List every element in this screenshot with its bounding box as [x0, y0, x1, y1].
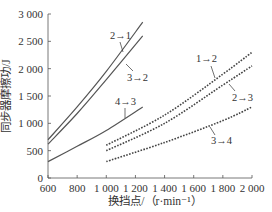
y-tick-label: 3 000: [18, 8, 43, 20]
label-2to1: 2→1: [110, 30, 131, 41]
axes: [48, 14, 252, 178]
x-axis-label: 换挡点/（r·min⁻¹）: [108, 194, 201, 207]
label-2to3: 2→3: [232, 92, 253, 103]
annotations: 2→1 3→2 4→3 1→2 2→3 3→4: [110, 30, 253, 146]
chart: 05001 0001 5002 0002 5003 000 6008001 00…: [0, 0, 272, 212]
y-tick-label: 1 000: [18, 117, 43, 129]
label-3to2: 3→2: [127, 72, 148, 83]
y-tick-label: 2 000: [18, 63, 43, 75]
x-tick-label: 1 200: [123, 182, 148, 194]
x-tick-label: 1 400: [152, 182, 177, 194]
series-line-3→2: [48, 36, 143, 144]
y-axis-ticks: 05001 0001 5002 0002 5003 000: [18, 8, 51, 184]
x-tick-label: 2 000: [240, 182, 265, 194]
y-tick-label: 1 500: [18, 90, 43, 102]
label-3to4: 3→4: [211, 135, 233, 146]
label-1to2: 1→2: [196, 53, 217, 64]
x-tick-label: 800: [69, 182, 86, 194]
label-4to3: 4→3: [115, 96, 136, 107]
x-tick-label: 1 600: [181, 182, 206, 194]
x-tick-label: 600: [40, 182, 57, 194]
y-tick-label: 500: [27, 145, 44, 157]
y-tick-label: 2 500: [18, 35, 43, 47]
x-tick-label: 1 800: [210, 182, 235, 194]
y-axis-label: 同步器摩擦功/J: [0, 59, 12, 133]
x-tick-label: 1 000: [94, 182, 119, 194]
